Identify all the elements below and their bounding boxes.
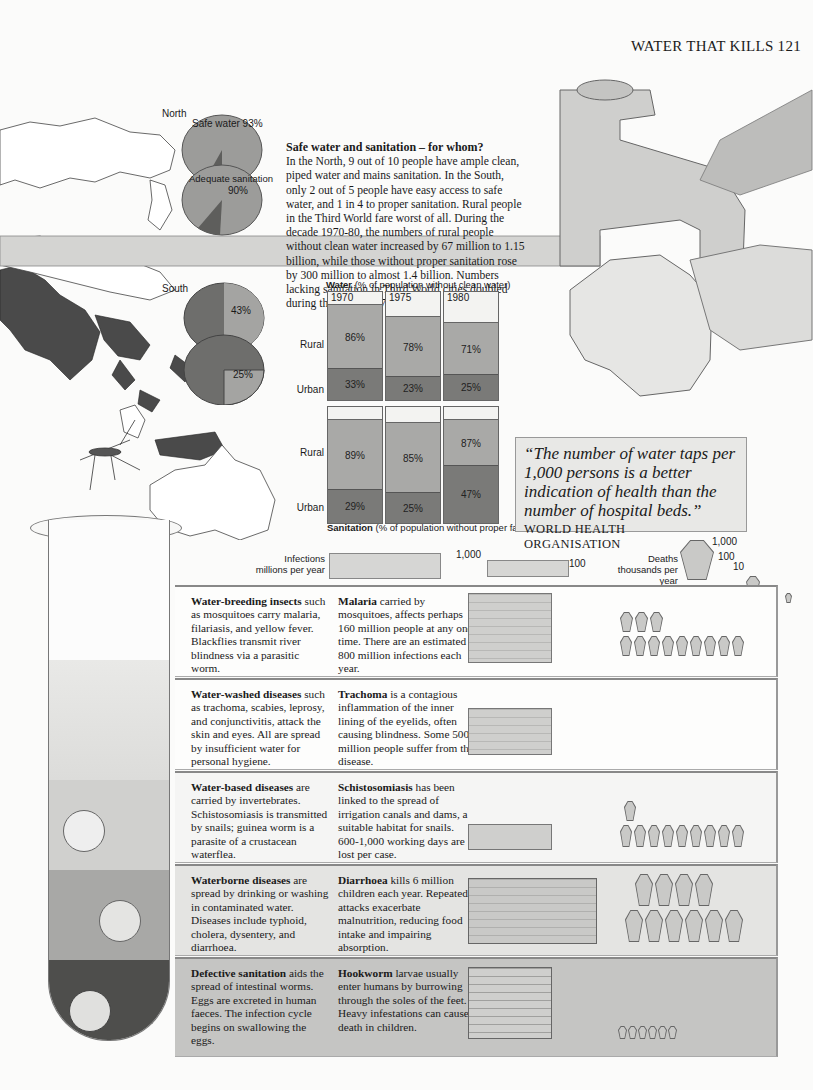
water-urban-label: Urban [294,384,324,395]
infections-icons [468,708,552,755]
deaths-icons [620,612,746,660]
category-text: Waterborne diseases are spread by drinki… [191,874,329,954]
disease-row-based: Water-based diseases are carried by inve… [175,771,778,863]
sanitation-chart-title: Sanitation (% of population without prop… [327,522,546,533]
category-text: Water-washed diseases such as trachoma, … [191,688,329,768]
infections-legend-100: 100 [569,558,586,569]
disease-row-insects: Water-breeding insects such as mosquitoe… [175,585,778,677]
water-bar-1970: 1970 86% 33% [327,291,383,401]
water-bar-1980: 1980 71% 25% [443,291,499,401]
water-rural-label: Rural [294,339,324,350]
tube-layer-sanitation [49,960,169,1040]
disease-text: Trachoma is a contagious inflammation of… [338,688,476,768]
category-text: Water-breeding insects such as mosquitoe… [191,595,329,675]
water-sanitation-chart: Rural Urban Rural Urban 1970 86% 33% 197… [300,290,510,535]
north-sanitation-value: 90% [228,185,248,196]
deaths-legend-label: Deaths thousands per year [600,553,678,586]
parasite-egg-icon [63,810,105,852]
parasite-larva-icon [99,900,141,942]
sanitation-rural-label: Rural [294,447,324,458]
disease-text: Hookworm larvae usually enter humans by … [338,967,476,1034]
south-sanitation-value: 25% [233,369,253,380]
south-pie-charts [182,280,267,405]
intro-heading: Safe water and sanitation – for whom? [286,140,484,154]
infections-icons [468,593,552,663]
deaths-legend-10-icon [785,593,792,603]
worm-egg-icon [69,990,111,1032]
quote-text: “The number of water taps per 1,000 pers… [524,444,740,520]
north-sanitation-label: Adequate sanitation [189,173,273,184]
map-europe [0,118,175,188]
infections-legend-100-icon [487,560,569,577]
deaths-icons [620,801,746,851]
sanitation-bar-1980: 87% 47% [443,406,499,524]
sanitation-bar-1970: 89% 29% [327,406,383,524]
infections-legend-label: Infections millions per year [250,553,325,575]
test-tube-illustration [48,520,170,1041]
category-text: Defective sanitation aids the spread of … [191,967,329,1047]
infections-icons [468,878,597,944]
south-safe-water-value: 43% [231,305,251,316]
who-quote-box: “The number of water taps per 1,000 pers… [515,437,747,532]
infections-legend-1000-icon [329,553,441,579]
water-chart-title: Water (% of population without clean wat… [326,279,510,290]
disease-row-waterborne: Waterborne diseases are spread by drinki… [175,864,778,956]
disease-text: Malaria carried by mosquitoes, affects p… [338,595,476,675]
infections-legend-1000: 1,000 [456,549,481,560]
disease-row-sanitation: Defective sanitation aids the spread of … [175,957,778,1057]
water-bar-1975: 1975 78% 23% [385,291,441,401]
infections-icons [468,824,552,850]
north-safe-water-label: Safe water 93% [192,118,263,129]
sanitation-bar-1975: 85% 25% [385,406,441,524]
tube-layer-washed [49,660,169,780]
deaths-icons [625,874,745,946]
category-text: Water-based diseases are carried by inve… [191,781,329,861]
infections-icons [468,967,552,1039]
disease-text: Diarrhoea kills 6 million children each … [338,874,476,954]
disease-text: Schistosomiasis has been linked to the s… [338,781,476,861]
deaths-legend-10: 10 [733,561,744,572]
disease-row-washed: Water-washed diseases such as trachoma, … [175,678,778,770]
deaths-legend-1000: 1,000 [712,536,737,547]
hands-illustration [570,255,712,396]
sanitation-urban-label: Urban [294,502,324,513]
deaths-icons [618,1025,678,1043]
running-title: WATER THAT KILLS 121 [631,38,801,55]
